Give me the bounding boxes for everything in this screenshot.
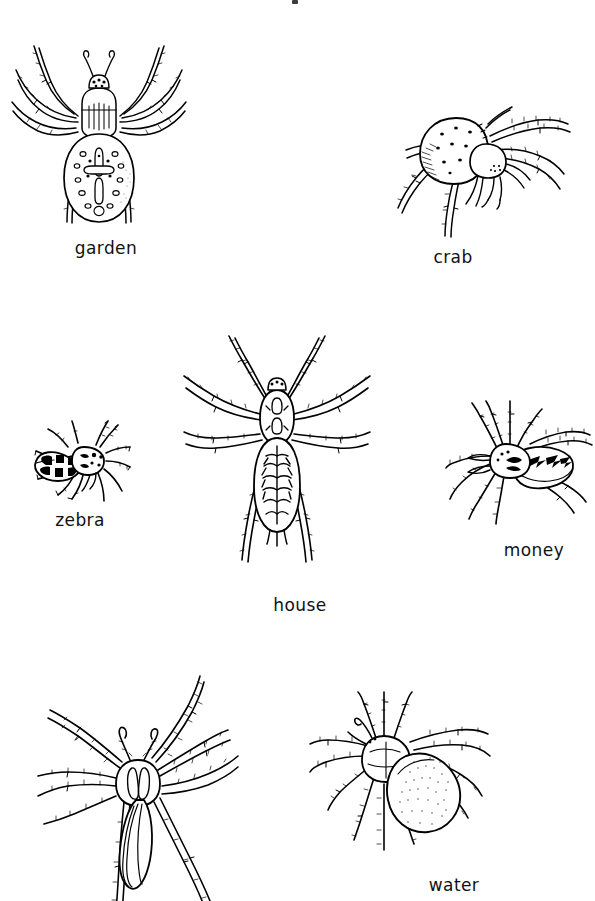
figure-garden xyxy=(4,30,194,235)
spider-crab-icon xyxy=(382,78,572,238)
spider-house-icon xyxy=(180,334,375,584)
caption-zebra: zebra xyxy=(44,512,116,529)
figure-water xyxy=(310,692,540,872)
figure-crab xyxy=(382,78,572,238)
spider-longlegged-icon xyxy=(12,666,282,901)
figure-longlegged xyxy=(12,666,282,901)
spider-money-icon xyxy=(446,398,595,533)
spider-zebra-icon xyxy=(22,405,142,515)
figure-house xyxy=(180,334,375,584)
caption-water: water xyxy=(413,877,495,894)
spider-garden-icon xyxy=(4,30,194,235)
caption-money: money xyxy=(494,542,574,559)
spider-water-icon xyxy=(310,692,540,872)
illustration-plate: garden xyxy=(0,0,595,901)
caption-garden: garden xyxy=(64,240,148,257)
caption-crab: crab xyxy=(420,249,486,266)
figure-zebra xyxy=(22,405,142,515)
page-edge-artifact xyxy=(292,0,298,4)
caption-house: house xyxy=(264,597,336,614)
figure-money xyxy=(446,398,595,533)
